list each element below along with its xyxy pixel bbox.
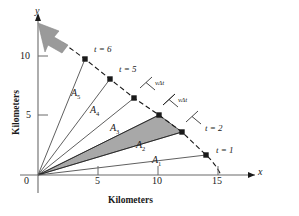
area-label-a1: A1 xyxy=(152,155,161,168)
x-tick-label-5: 5 xyxy=(95,176,100,186)
y-tick-label-10: 10 xyxy=(20,51,30,61)
marker-t6 xyxy=(82,56,87,61)
y-axis-variable: y xyxy=(35,6,39,16)
marker-t5 xyxy=(107,76,112,81)
marker-t3 xyxy=(156,112,161,117)
y-tick-label-5: 5 xyxy=(26,110,31,120)
point-label-t5: t = 5 xyxy=(119,65,137,74)
kepler-equal-areas-figure: y x 0 5 10 15 5 10 Kilometers Kilometers… xyxy=(0,0,299,216)
radius-t2 xyxy=(38,132,182,175)
marker-t4 xyxy=(131,95,136,100)
plot-canvas xyxy=(0,0,299,216)
area-label-a3: A3 xyxy=(110,123,119,136)
interval-label-vdt-2: vΔt xyxy=(178,97,187,104)
x-tick-label-15: 15 xyxy=(212,176,222,186)
point-label-t6: t = 6 xyxy=(94,45,112,54)
y-axis-title: Kilometers xyxy=(12,90,22,135)
x-tick-label-10: 10 xyxy=(152,176,162,186)
area-label-a4: A4 xyxy=(90,105,99,118)
x-axis-arrowhead xyxy=(248,172,255,178)
x-axis-variable: x xyxy=(258,167,262,177)
area-label-a2: A2 xyxy=(136,140,145,153)
x-axis-title: Kilometers xyxy=(108,196,153,206)
radii-group xyxy=(38,59,206,175)
marker-t2 xyxy=(179,129,184,134)
point-label-t1: t = 1 xyxy=(216,146,234,155)
direction-arrow-icon xyxy=(38,23,68,53)
marker-t1 xyxy=(203,152,208,157)
area-label-a5: A5 xyxy=(71,88,80,101)
x-tick-label-0: 0 xyxy=(24,176,29,186)
interval-label-vdt-1: vΔt xyxy=(155,80,164,87)
point-label-t2: t = 2 xyxy=(205,124,223,133)
